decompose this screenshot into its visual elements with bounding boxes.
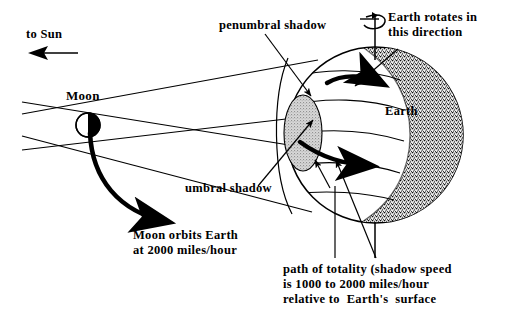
label-earth-rotates: Earth rotates in this direction	[388, 10, 477, 40]
label-path-of-totality: path of totality (shadow speed is 1000 t…	[283, 262, 452, 306]
label-moon-orbits-earth: Moon orbits Earth at 2000 miles/hour	[133, 228, 238, 258]
moon-orbit-arrow-icon	[90, 133, 168, 222]
label-to-sun: to Sun	[26, 27, 62, 42]
label-moon: Moon	[66, 88, 100, 103]
shadow-cone-rays	[22, 58, 320, 214]
to-sun-arrow-icon	[28, 46, 78, 60]
eclipse-diagram-canvas: to Sun Moon penumbral shadow umbral shad…	[0, 0, 507, 321]
umbral-shadow-spot	[284, 95, 322, 171]
label-penumbral-shadow: penumbral shadow	[219, 18, 326, 33]
label-earth: Earth	[385, 104, 418, 119]
label-umbral-shadow: umbral shadow	[185, 181, 272, 196]
